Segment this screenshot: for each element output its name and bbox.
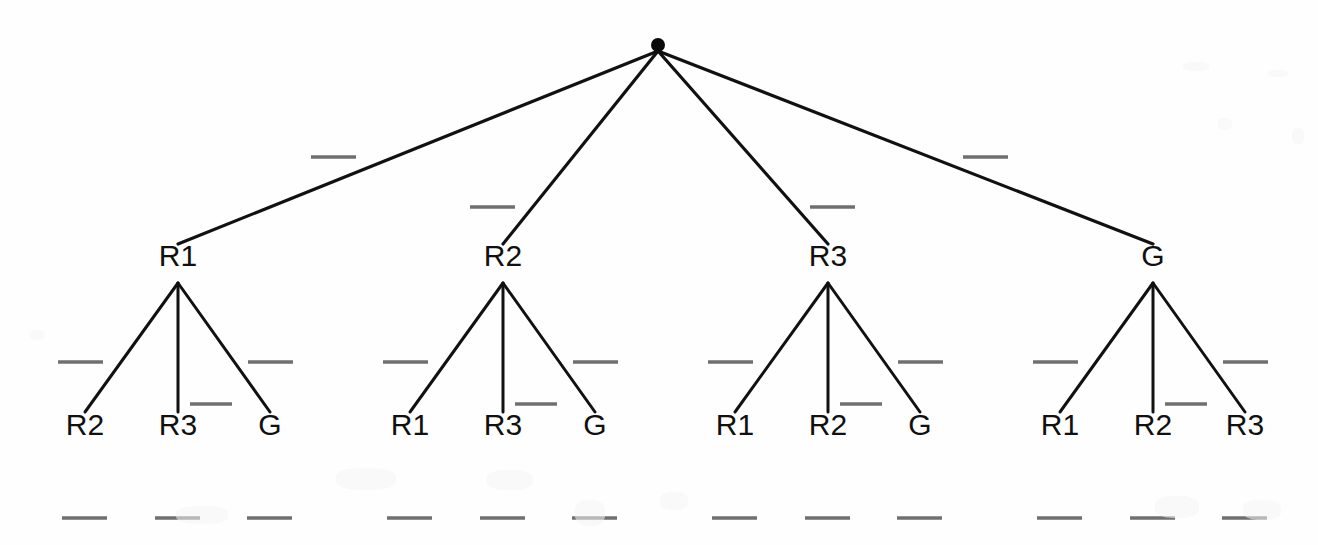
- leaf-node-r3-r2[interactable]: R2: [809, 410, 847, 440]
- branch-r1-to-g[interactable]: [178, 283, 270, 412]
- branch-r1-to-r2[interactable]: [85, 283, 178, 412]
- leaf-node-r2-g[interactable]: G: [583, 410, 606, 440]
- level1-node-r1[interactable]: R1: [159, 241, 197, 271]
- leaf-node-r3-g[interactable]: G: [908, 410, 931, 440]
- branch-g-to-r3[interactable]: [1153, 283, 1245, 412]
- branch-r2-to-g[interactable]: [503, 283, 595, 412]
- leaf-node-g-r1[interactable]: R1: [1041, 410, 1079, 440]
- leaf-node-r3-r1[interactable]: R1: [716, 410, 754, 440]
- branch-r3-to-g[interactable]: [828, 283, 920, 412]
- root-edge-to-r3[interactable]: [658, 51, 828, 244]
- leaf-node-g-r2[interactable]: R2: [1134, 410, 1172, 440]
- level1-node-r3[interactable]: R3: [809, 241, 847, 271]
- tree-canvas: [0, 0, 1318, 545]
- root-edges-group: [178, 51, 1153, 244]
- leaf-node-r1-r3[interactable]: R3: [159, 410, 197, 440]
- leaf-node-r2-r1[interactable]: R1: [391, 410, 429, 440]
- root-edge-to-g[interactable]: [658, 51, 1153, 244]
- level1-node-r2[interactable]: R2: [484, 241, 522, 271]
- level1-node-g[interactable]: G: [1141, 241, 1164, 271]
- leaf-node-g-r3[interactable]: R3: [1226, 410, 1264, 440]
- root-node[interactable]: [651, 38, 665, 52]
- branch-r2-to-r1[interactable]: [410, 283, 503, 412]
- root-edge-to-r1[interactable]: [178, 51, 658, 244]
- root-edge-to-r2[interactable]: [503, 51, 658, 244]
- game-tree-figure: R1R2R3GR2R3GR1R3GR1R2GR1R2R3: [0, 0, 1318, 545]
- leaf-node-r2-r3[interactable]: R3: [484, 410, 522, 440]
- branch-r3-to-r1[interactable]: [735, 283, 828, 412]
- branch-g-to-r1[interactable]: [1060, 283, 1153, 412]
- branch-edges-group: [85, 283, 1245, 412]
- leaf-node-r1-r2[interactable]: R2: [66, 410, 104, 440]
- leaf-node-r1-g[interactable]: G: [258, 410, 281, 440]
- redacted-label-dashes-group: [58, 157, 1268, 518]
